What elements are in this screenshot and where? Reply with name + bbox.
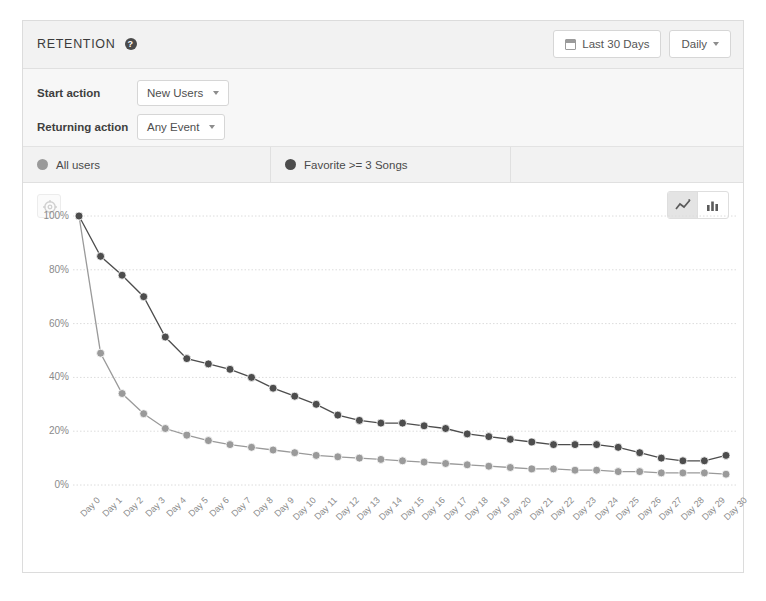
data-point[interactable]	[399, 419, 407, 427]
y-axis-tick-label: 60%	[29, 318, 69, 329]
data-point[interactable]	[420, 422, 428, 430]
data-point[interactable]	[593, 466, 601, 474]
data-point[interactable]	[657, 454, 665, 462]
granularity-dropdown[interactable]: Daily	[669, 30, 731, 58]
data-point[interactable]	[550, 441, 558, 449]
data-point[interactable]	[485, 462, 493, 470]
data-point[interactable]	[442, 425, 450, 433]
data-point[interactable]	[614, 443, 622, 451]
data-point[interactable]	[75, 212, 83, 220]
data-point[interactable]	[485, 433, 493, 441]
data-point[interactable]	[528, 465, 536, 473]
data-point[interactable]	[636, 449, 644, 457]
y-axis-tick-label: 20%	[29, 425, 69, 436]
series-dot-icon	[37, 159, 48, 170]
data-point[interactable]	[140, 293, 148, 301]
data-point[interactable]	[140, 410, 148, 418]
legend-item-favorite-songs[interactable]: Favorite >= 3 Songs	[271, 147, 511, 182]
returning-action-row: Returning action Any Event	[37, 114, 225, 140]
start-action-row: Start action New Users	[37, 80, 229, 106]
data-point[interactable]	[204, 360, 212, 368]
data-point[interactable]	[571, 441, 579, 449]
returning-action-label: Returning action	[37, 121, 137, 133]
retention-card: RETENTION ? Last 30 Days Daily Start act…	[22, 20, 744, 573]
data-point[interactable]	[420, 458, 428, 466]
returning-action-dropdown[interactable]: Any Event	[137, 114, 225, 140]
data-point[interactable]	[550, 465, 558, 473]
data-point[interactable]	[506, 464, 514, 472]
data-point[interactable]	[463, 430, 471, 438]
chevron-down-icon	[213, 91, 219, 95]
data-point[interactable]	[269, 446, 277, 454]
granularity-label: Daily	[681, 38, 707, 50]
data-point[interactable]	[528, 438, 536, 446]
data-point[interactable]	[312, 451, 320, 459]
data-point[interactable]	[593, 441, 601, 449]
data-point[interactable]	[377, 419, 385, 427]
series-dot-icon	[285, 159, 296, 170]
data-point[interactable]	[226, 441, 234, 449]
data-point[interactable]	[161, 333, 169, 341]
header-controls: Last 30 Days Daily	[553, 30, 731, 58]
data-point[interactable]	[291, 392, 299, 400]
data-point[interactable]	[355, 416, 363, 424]
data-point[interactable]	[506, 435, 514, 443]
data-point[interactable]	[722, 451, 730, 459]
data-point[interactable]	[657, 469, 665, 477]
data-point[interactable]	[248, 443, 256, 451]
y-axis-tick-label: 80%	[29, 264, 69, 275]
data-point[interactable]	[183, 431, 191, 439]
retention-plot: 100%80%60%40%20%0%Day 0Day 1Day 2Day 3Da…	[23, 183, 745, 572]
data-point[interactable]	[722, 470, 730, 478]
data-point[interactable]	[334, 411, 342, 419]
data-point[interactable]	[118, 390, 126, 398]
returning-action-value: Any Event	[147, 121, 199, 133]
page-title-text: RETENTION	[37, 37, 116, 51]
date-range-label: Last 30 Days	[582, 38, 649, 50]
data-point[interactable]	[571, 466, 579, 474]
data-point[interactable]	[161, 425, 169, 433]
series-line	[79, 216, 726, 474]
data-point[interactable]	[399, 457, 407, 465]
data-point[interactable]	[463, 461, 471, 469]
card-header: RETENTION ? Last 30 Days Daily	[23, 21, 743, 69]
data-point[interactable]	[97, 349, 105, 357]
legend-item-empty[interactable]	[511, 147, 743, 182]
y-axis-tick-label: 40%	[29, 371, 69, 382]
help-circle-icon[interactable]: ?	[125, 38, 137, 50]
chevron-down-icon	[713, 42, 719, 46]
legend-label: All users	[56, 159, 100, 171]
data-point[interactable]	[226, 365, 234, 373]
date-range-button[interactable]: Last 30 Days	[553, 30, 661, 58]
y-axis-tick-label: 0%	[29, 479, 69, 490]
data-point[interactable]	[679, 457, 687, 465]
data-point[interactable]	[312, 400, 320, 408]
data-point[interactable]	[269, 384, 277, 392]
legend-item-all-users[interactable]: All users	[23, 147, 271, 182]
data-point[interactable]	[700, 457, 708, 465]
page-title: RETENTION ?	[37, 37, 137, 51]
data-point[interactable]	[442, 460, 450, 468]
chevron-down-icon	[209, 125, 215, 129]
data-point[interactable]	[183, 355, 191, 363]
data-point[interactable]	[118, 271, 126, 279]
legend-label: Favorite >= 3 Songs	[304, 159, 408, 171]
chart-area: 100%80%60%40%20%0%Day 0Day 1Day 2Day 3Da…	[23, 183, 743, 572]
legend-bar: All users Favorite >= 3 Songs	[23, 147, 743, 183]
start-action-value: New Users	[147, 87, 203, 99]
filters-section: Start action New Users Returning action …	[23, 69, 743, 147]
data-point[interactable]	[636, 468, 644, 476]
data-point[interactable]	[614, 468, 622, 476]
data-point[interactable]	[248, 373, 256, 381]
start-action-dropdown[interactable]: New Users	[137, 80, 229, 106]
data-point[interactable]	[204, 437, 212, 445]
data-point[interactable]	[334, 453, 342, 461]
data-point[interactable]	[679, 469, 687, 477]
calendar-icon	[565, 39, 576, 50]
data-point[interactable]	[700, 469, 708, 477]
data-point[interactable]	[97, 252, 105, 260]
y-axis-tick-label: 100%	[29, 210, 69, 221]
data-point[interactable]	[355, 454, 363, 462]
data-point[interactable]	[377, 455, 385, 463]
data-point[interactable]	[291, 449, 299, 457]
